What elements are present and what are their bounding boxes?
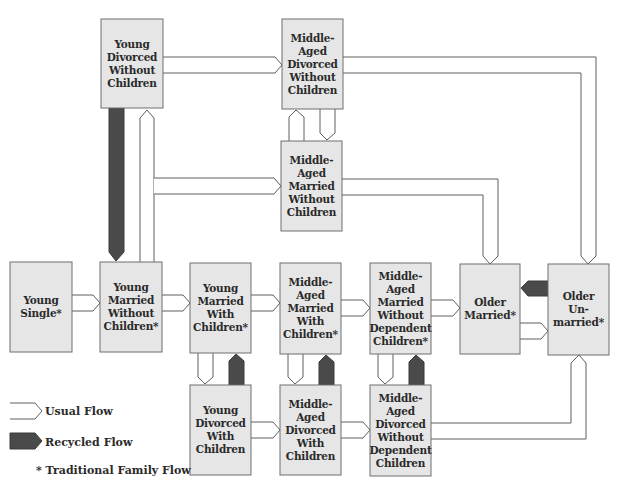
node-label-line: Married xyxy=(287,302,334,314)
node-label-line: Aged xyxy=(385,405,416,417)
usual-flow-arrow-young-divorced-with-children-to-middle-aged-divorced-with-children xyxy=(251,422,280,438)
node-label-line: Middle- xyxy=(289,398,333,410)
node-young-married-without-children: YoungMarriedWithoutChildren* xyxy=(100,262,162,352)
node-label-line: Young xyxy=(113,38,150,50)
node-label-line: Children* xyxy=(104,320,160,332)
family-life-cycle-diagram: YoungDivorcedWithoutChildrenMiddle-AgedD… xyxy=(0,0,619,493)
usual-flow-arrow-middle-aged-divorced-without-dependent-children-to-older-unmarried xyxy=(431,355,586,439)
node-label-line: Middle- xyxy=(289,276,333,288)
node-label-line: Aged xyxy=(296,167,327,179)
node-middle-aged-divorced-without-children: Middle-AgedDivorcedWithoutChildren xyxy=(282,19,343,109)
node-label-line: Divorced xyxy=(285,424,336,436)
node-label-line: Young xyxy=(202,282,239,294)
usual-flow-arrow-middle-aged-married-without-dependent-children-to-older-married xyxy=(431,300,460,316)
node-label-line: Dependent xyxy=(369,444,431,456)
node-label-line: Middle- xyxy=(290,154,334,166)
legend-traditional-note: * Traditional Family Flow xyxy=(36,464,191,477)
node-label-line: Un- xyxy=(568,303,589,315)
legend: Usual Flow Recycled Flow * Traditional F… xyxy=(10,403,191,477)
recycled-flow-arrow-older-unmarried-to-older-married xyxy=(521,281,548,296)
node-label-line: Married xyxy=(377,296,424,308)
node-young-divorced-with-children: YoungDivorcedWithChildren xyxy=(190,385,251,475)
node-label-line: Married xyxy=(108,294,155,306)
node-label-line: Without xyxy=(287,193,335,205)
node-label-line: Middle- xyxy=(379,392,423,404)
usual-flow-arrow-young-married-without-children-to-young-married-with-children xyxy=(162,295,190,311)
node-middle-aged-married-without-dependent-children: Middle-AgedMarriedWithoutDependentChildr… xyxy=(369,263,431,354)
node-label-line: Middle- xyxy=(379,270,423,282)
node-label-line: Children xyxy=(196,443,246,455)
node-label-line: Aged xyxy=(295,289,326,301)
usual-flow-arrow-older-married-to-older-unmarried xyxy=(520,323,548,339)
node-middle-aged-married-with-children: Middle-AgedMarriedWithChildren* xyxy=(280,263,341,354)
node-label-line: With xyxy=(296,315,325,327)
recycled-flow-arrow-young-divorced-without-children-to-young-married-without-children xyxy=(109,108,124,261)
usual-flow-arrow-young-single-to-young-married-without-children xyxy=(72,295,100,311)
node-label-line: Children xyxy=(287,206,337,218)
node-label-line: Aged xyxy=(295,411,326,423)
node-label-line: Children xyxy=(376,457,426,469)
node-label-line: married* xyxy=(553,316,605,328)
node-young-married-with-children: YoungMarriedWithChildren* xyxy=(190,263,251,353)
legend-usual-flow-icon xyxy=(10,403,42,419)
node-label-line: Children xyxy=(288,84,338,96)
node-label-line: Married xyxy=(197,295,244,307)
node-label-line: Middle- xyxy=(291,32,335,44)
node-label-line: Divorced xyxy=(195,417,246,429)
usual-flow-arrow-young-married-with-children-to-middle-aged-married-with-children xyxy=(251,295,280,311)
node-label-line: Aged xyxy=(385,283,416,295)
node-label-line: Without xyxy=(376,431,424,443)
usual-flow-arrow-middle-aged-married-without-children-to-middle-aged-divorced-without-children xyxy=(289,110,304,141)
node-label-line: Aged xyxy=(297,45,328,57)
node-label-line: Dependent xyxy=(369,322,431,334)
usual-flow-arrow-middle-aged-married-with-children-to-middle-aged-divorced-with-children xyxy=(288,354,303,384)
node-label-line: Without xyxy=(108,64,156,76)
usual-flow-arrow-young-married-without-children-to-young-divorced-without-children xyxy=(140,110,154,262)
node-older-unmarried: OlderUn-married* xyxy=(548,264,609,355)
node-label-line: Children xyxy=(286,450,336,462)
node-label-line: Single* xyxy=(20,307,62,319)
usual-flow-arrow-middle-aged-married-with-children-to-middle-aged-married-without-dependent-children xyxy=(341,300,370,316)
node-middle-aged-divorced-without-dependent-children: Middle-AgedDivorcedWithoutDependentChild… xyxy=(369,385,431,476)
usual-flow-arrow-young-divorced-without-children-to-middle-aged-divorced-without-children xyxy=(163,57,282,73)
node-label-line: Married xyxy=(288,180,335,192)
node-young-divorced-without-children: YoungDivorcedWithoutChildren xyxy=(101,19,163,108)
usual-flow-arrow-young-married-without-children-to-middle-aged-married-without-children xyxy=(154,178,281,194)
node-middle-aged-married-without-children: Middle-AgedMarriedWithoutChildren xyxy=(281,141,342,231)
usual-flow-arrow-middle-aged-divorced-with-children-to-middle-aged-divorced-without-dependent-children xyxy=(341,422,370,438)
usual-flow-arrow-middle-aged-divorced-without-children-to-older-unmarried xyxy=(343,57,596,264)
recycled-flow-arrow-young-divorced-with-children-to-young-married-with-children xyxy=(229,354,244,385)
arrows-layer xyxy=(72,57,596,439)
recycled-flow-arrow-middle-aged-divorced-with-children-to-middle-aged-married-with-children xyxy=(319,355,334,385)
node-label-line: Divorced xyxy=(107,51,158,63)
node-label-line: With xyxy=(206,430,235,442)
node-middle-aged-divorced-with-children: Middle-AgedDivorcedWithChildren xyxy=(280,385,341,475)
node-label-line: Without xyxy=(107,307,155,319)
usual-flow-arrow-middle-aged-married-without-dependent-children-to-middle-aged-divorced-without-dependent-children xyxy=(378,354,393,384)
usual-flow-arrow-young-married-with-children-to-young-divorced-with-children xyxy=(198,353,213,384)
node-label-line: Older xyxy=(474,296,506,308)
legend-usual-flow-label: Usual Flow xyxy=(45,405,113,418)
usual-flow-arrow-middle-aged-married-without-children-to-older-married xyxy=(342,179,498,264)
node-older-married: OlderMarried* xyxy=(460,264,520,354)
usual-flow-arrow-middle-aged-divorced-without-children-to-middle-aged-married-without-children xyxy=(320,109,335,140)
node-label-line: Older xyxy=(563,290,595,302)
node-label-line: Without xyxy=(376,309,424,321)
node-label-line: Divorced xyxy=(287,58,338,70)
recycled-flow-arrow-middle-aged-divorced-without-dependent-children-to-middle-aged-married-without-dependent-children xyxy=(409,355,424,385)
node-label-line: Children* xyxy=(373,335,429,347)
node-label-line: Without xyxy=(288,71,336,83)
node-label-line: Young xyxy=(202,404,239,416)
node-label-line: Married* xyxy=(464,309,516,321)
node-label-line: Children* xyxy=(283,328,339,340)
node-young-single: YoungSingle* xyxy=(10,262,72,352)
node-label-line: Young xyxy=(112,281,149,293)
node-label-line: Divorced xyxy=(375,418,426,430)
node-label-line: Children* xyxy=(193,321,249,333)
node-label-line: With xyxy=(206,308,235,320)
legend-recycled-flow-label: Recycled Flow xyxy=(45,436,133,449)
node-label-line: Children xyxy=(107,77,157,89)
legend-recycled-flow-icon xyxy=(10,433,42,449)
node-label-line: With xyxy=(296,437,325,449)
node-label-line: Young xyxy=(22,294,59,306)
